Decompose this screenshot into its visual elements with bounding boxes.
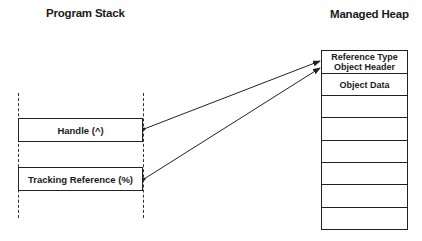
reference-arrows bbox=[0, 0, 422, 241]
tracking-reference-arrow bbox=[144, 68, 320, 179]
handle-arrow bbox=[144, 61, 320, 129]
